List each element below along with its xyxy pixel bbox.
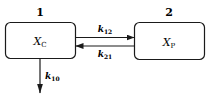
- pk-model-diagram: 1 2 XC XP k12 k21 k10: [0, 0, 219, 108]
- k21-label: k21: [98, 49, 113, 60]
- peripheral-compartment-label: XP: [162, 36, 176, 50]
- k10-label: k10: [45, 71, 60, 82]
- compartment-2-number: 2: [165, 6, 173, 19]
- compartment-1-number: 1: [36, 6, 44, 19]
- central-compartment-label: XC: [32, 35, 46, 49]
- k12-label: k12: [98, 24, 113, 35]
